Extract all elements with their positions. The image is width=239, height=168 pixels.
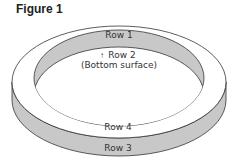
arrow-up-icon: ↑ — [100, 51, 104, 60]
ring-diagram: Row 1 ↑ Row 2 (Bottom surface) Row 4 Row… — [0, 0, 239, 168]
row2-note: (Bottom surface) — [81, 60, 157, 70]
row3-label: Row 3 — [104, 143, 131, 153]
row4-label: Row 4 — [104, 122, 132, 132]
row2-label: Row 2 — [108, 50, 135, 60]
row1-label: Row 1 — [105, 30, 132, 40]
